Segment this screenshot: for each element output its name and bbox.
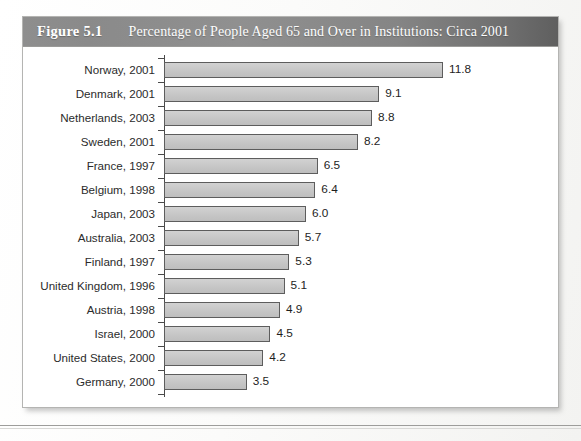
bar-row: Germany, 20003.5 [23,370,558,394]
bar [164,350,263,366]
bar-rows: Norway, 200111.8Denmark, 20019.1Netherla… [23,58,558,394]
axis-tick [158,154,164,155]
bar-value-label: 6.5 [324,160,340,172]
bar-row: Austria, 19984.9 [23,298,558,322]
page-background: Figure 5.1 Percentage of People Aged 65 … [0,0,581,441]
chart-plot-area: Norway, 200111.8Denmark, 20019.1Netherla… [23,47,558,407]
category-label: Israel, 2000 [23,328,164,340]
bar [164,326,270,342]
bar-cell: 5.7 [164,226,558,250]
figure-panel: Figure 5.1 Percentage of People Aged 65 … [22,16,559,408]
category-label: Belgium, 1998 [23,184,164,196]
axis-tick [158,178,164,179]
bar-value-label: 11.8 [449,64,471,76]
bar-cell: 5.3 [164,250,558,274]
bar-cell: 9.1 [164,82,558,106]
axis-tick [158,82,164,83]
bar-cell: 11.8 [164,58,558,82]
bar-value-label: 5.1 [291,280,307,292]
bar-row: Netherlands, 20038.8 [23,106,558,130]
bar-row: Israel, 20004.5 [23,322,558,346]
bar [164,302,280,318]
bar [164,158,318,174]
axis-tick [158,58,164,59]
bar-row: Australia, 20035.7 [23,226,558,250]
category-label: Australia, 2003 [23,232,164,244]
bar-value-label: 6.0 [312,208,328,220]
bar-value-label: 8.8 [378,112,394,124]
bar-cell: 8.8 [164,106,558,130]
category-label: Norway, 2001 [23,64,164,76]
category-label: Finland, 1997 [23,256,164,268]
category-label: United Kingdom, 1996 [23,280,164,292]
axis-tick [158,202,164,203]
axis-tick [158,130,164,131]
bar-value-label: 4.2 [269,352,285,364]
bar [164,110,372,126]
bar-cell: 8.2 [164,130,558,154]
bar-cell: 5.1 [164,274,558,298]
category-label: Netherlands, 2003 [23,112,164,124]
bar-row: Japan, 20036.0 [23,202,558,226]
figure-number: Figure 5.1 [37,23,103,40]
bar-cell: 4.5 [164,322,558,346]
bar [164,134,358,150]
bar [164,278,285,294]
bar-row: France, 19976.5 [23,154,558,178]
bar-cell: 6.4 [164,178,558,202]
bar-value-label: 4.5 [276,328,292,340]
bar-row: Belgium, 19986.4 [23,178,558,202]
bar-row: Denmark, 20019.1 [23,82,558,106]
bar-row: Sweden, 20018.2 [23,130,558,154]
category-label: Denmark, 2001 [23,88,164,100]
bar-cell: 6.5 [164,154,558,178]
category-label: Sweden, 2001 [23,136,164,148]
bar-row: Finland, 19975.3 [23,250,558,274]
category-label: Japan, 2003 [23,208,164,220]
bar [164,86,379,102]
axis-tick [158,298,164,299]
axis-tick [158,106,164,107]
bar [164,62,443,78]
bar-value-label: 5.7 [305,232,321,244]
page-rule-bottom [0,428,581,429]
axis-tick [158,322,164,323]
bar [164,254,289,270]
axis-tick [158,274,164,275]
category-label: Germany, 2000 [23,376,164,388]
bar-row: United States, 20004.2 [23,346,558,370]
figure-title: Percentage of People Aged 65 and Over in… [129,24,510,40]
bar [164,182,315,198]
bar-cell: 4.9 [164,298,558,322]
bar-value-label: 3.5 [253,376,269,388]
bar [164,230,299,246]
axis-tick [158,370,164,371]
bar [164,374,247,390]
category-label: Austria, 1998 [23,304,164,316]
bar-value-label: 9.1 [385,88,401,100]
bar-row: Norway, 200111.8 [23,58,558,82]
axis-tick [158,346,164,347]
bar-row: United Kingdom, 19965.1 [23,274,558,298]
bar-cell: 4.2 [164,346,558,370]
figure-title-bar: Figure 5.1 Percentage of People Aged 65 … [23,17,558,47]
bar-cell: 3.5 [164,370,558,394]
bar-value-label: 4.9 [286,304,302,316]
bar-value-label: 5.3 [295,256,311,268]
bar-cell: 6.0 [164,202,558,226]
bar [164,206,306,222]
page-rule-top [0,425,581,426]
category-label: France, 1997 [23,160,164,172]
axis-tick [158,250,164,251]
axis-tick [158,226,164,227]
bar-value-label: 6.4 [321,184,337,196]
category-label: United States, 2000 [23,352,164,364]
bar-value-label: 8.2 [364,136,380,148]
axis-tick [158,394,164,395]
